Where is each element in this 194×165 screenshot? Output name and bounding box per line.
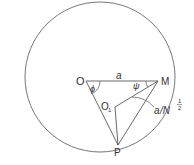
label-a: a xyxy=(116,70,122,81)
outer-circle xyxy=(25,2,175,152)
label-P: P xyxy=(114,147,121,158)
label-O1-subscript: 1 xyxy=(108,107,112,113)
angle-psi-arc xyxy=(146,81,148,87)
label-psi: ψ xyxy=(133,81,140,91)
label-phi: ϕ xyxy=(90,84,95,94)
label-O: O xyxy=(76,75,85,87)
label-M: M xyxy=(161,76,169,87)
label-chord-slash-N: /N xyxy=(159,105,171,116)
geometry-diagram: O M O 1 P a ϕ ψ a /N 1 2 xyxy=(0,0,194,165)
label-chord-exponent-num: 1 xyxy=(178,98,182,104)
label-chord-exponent-den: 2 xyxy=(178,105,182,111)
